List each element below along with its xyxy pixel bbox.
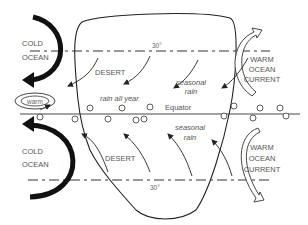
warm-current-south-label: WARM [250, 143, 273, 152]
warm-current-north-label: WARM [250, 55, 273, 64]
warm-current-south-label-3: CURRENT [244, 165, 281, 174]
wind-arrow [68, 58, 98, 86]
wind-arrow [124, 56, 150, 84]
warm-eddy-label: warm [26, 98, 43, 105]
warm-current-south-label-2: OCEAN [249, 154, 276, 163]
cold-current-arrowhead-north [22, 72, 34, 88]
equator-label: Equator [165, 103, 192, 112]
latitude-30-north-label: 30° [152, 42, 162, 49]
warm-current-north-label-2: OCEAN [249, 65, 276, 74]
cold-ocean-north-label: COLD [22, 39, 43, 48]
warm-current-north-label-3: CURRENT [244, 75, 281, 84]
equator-clouds [37, 103, 289, 123]
desert-north-label: DESERT [95, 68, 126, 77]
cold-ocean-south-label-2: OCEAN [22, 160, 49, 169]
climate-zones-diagram: COLD OCEAN COLD OCEAN WARM OCEAN CURRENT… [0, 0, 308, 225]
desert-south-label: DESERT [105, 154, 136, 163]
cold-ocean-south-label: COLD [22, 147, 43, 156]
cold-ocean-north-label-2: OCEAN [22, 53, 49, 62]
cold-current-arrow-north [32, 17, 61, 80]
cold-current-arrowhead-south [22, 116, 34, 132]
seasonal-rain-south-label: seasonal [175, 123, 205, 132]
wind-arrow [124, 134, 150, 172]
rain-all-year-label: rain all year [100, 94, 139, 103]
seasonal-rain-south-label-2: rain [184, 133, 197, 142]
seasonal-rain-north-label-2: rain [185, 87, 198, 96]
latitude-30-south-label: 30° [150, 184, 160, 191]
seasonal-rain-north-label: seasonal [176, 78, 206, 87]
